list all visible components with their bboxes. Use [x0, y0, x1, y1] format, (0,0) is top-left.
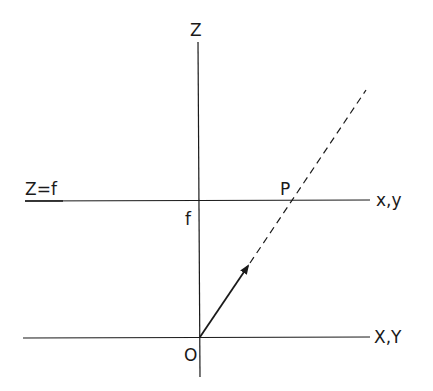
point-p-label: P [280, 179, 290, 199]
ray-vector-arrow [200, 266, 248, 337]
ray-dashed-line [250, 90, 366, 263]
origin-label: O [184, 345, 197, 365]
image-plane-label: Z=f [25, 179, 58, 199]
image-plane-line [25, 200, 370, 201]
focal-length-label: f [185, 209, 192, 229]
z-axis-line [198, 42, 200, 377]
world-axes-label: X,Y [374, 327, 402, 347]
z-axis-label: Z [190, 20, 202, 40]
image-plane-axes-label: x,y [376, 190, 402, 210]
projection-diagram: Z Z=f f P x,y X,Y O [0, 0, 433, 391]
world-plane-line [23, 337, 370, 338]
